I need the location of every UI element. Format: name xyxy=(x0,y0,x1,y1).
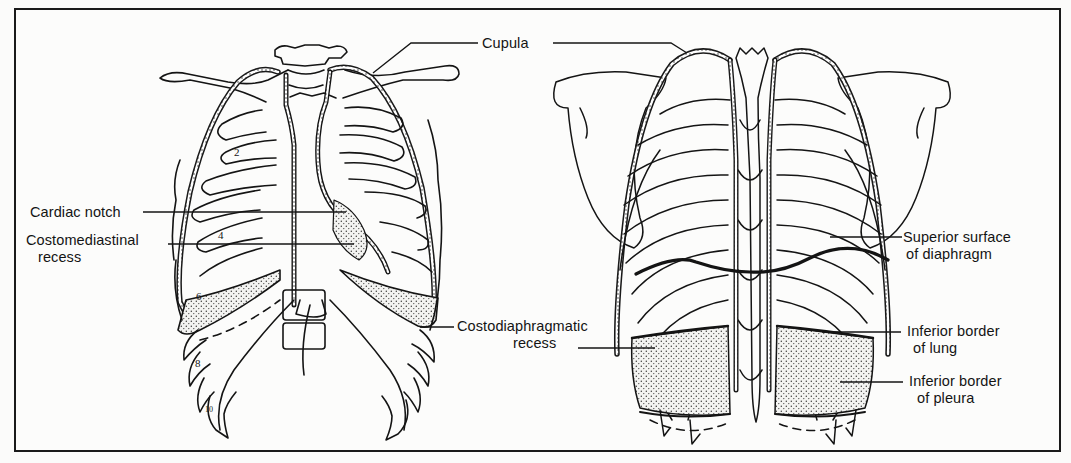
cupula-leader-right xyxy=(553,43,687,53)
label-cupula: Cupula xyxy=(482,35,529,52)
left-costal-margin xyxy=(219,300,294,430)
label-inferior-border-of-pleura: Inferior border of pleura xyxy=(909,373,1002,407)
pleura-dashed-border xyxy=(650,420,855,431)
label-costomediastinal-recess: Costomediastinal recess xyxy=(26,232,139,266)
right-scapula xyxy=(838,72,950,248)
vertebral-column xyxy=(736,48,768,422)
left-pleura xyxy=(179,70,278,310)
label-costodiaphragmatic-recess: Costodiaphragmatic recess xyxy=(457,318,588,352)
left-scapula xyxy=(554,72,666,248)
right-costal-margin xyxy=(330,300,405,430)
label-inferior-border-of-lung: Inferior border of lung xyxy=(907,323,1000,357)
cardiac-notch-shading xyxy=(333,200,367,260)
posterior-view xyxy=(554,48,951,444)
label-superior-surface-of-diaphragm: Superior surface of diaphragm xyxy=(903,229,1011,263)
rib-number-10: 10 xyxy=(205,405,213,414)
rib-number-4: 4 xyxy=(218,229,224,241)
label-cardiac-notch: Cardiac notch xyxy=(30,204,121,221)
rib-number-8: 8 xyxy=(195,357,201,369)
left-floating-rib xyxy=(208,392,236,438)
rib-number-2: 2 xyxy=(234,146,240,158)
right-ribs xyxy=(340,107,442,440)
posterior-left-recess xyxy=(632,326,730,415)
rib-number-6: 6 xyxy=(196,290,202,302)
left-costodiaphragmatic-recess xyxy=(178,270,280,334)
right-costodiaphragmatic-recess xyxy=(340,270,438,327)
anterior-view xyxy=(160,45,459,440)
posterior-right-recess xyxy=(775,326,873,415)
manubrium xyxy=(275,45,347,66)
